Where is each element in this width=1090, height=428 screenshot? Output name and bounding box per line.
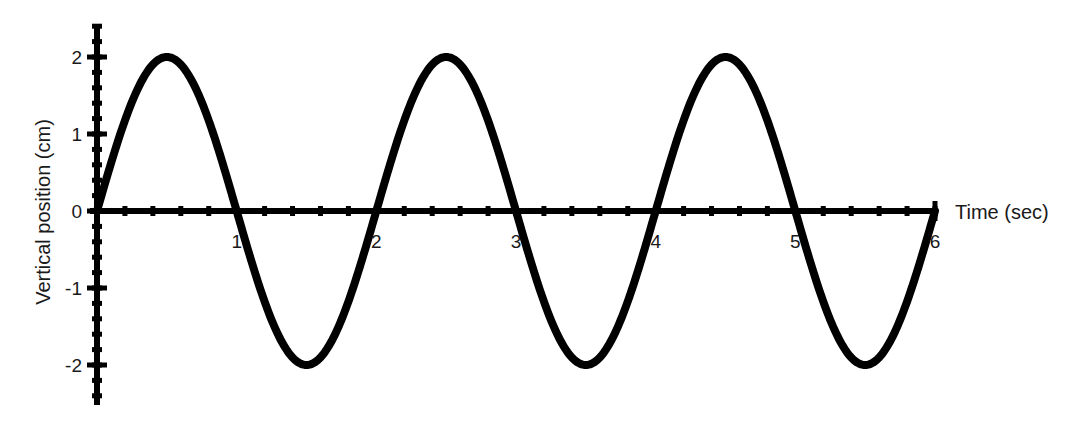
x-axis-title: Time (sec) — [955, 201, 1049, 223]
x-tick-label: 1 — [231, 231, 242, 252]
y-tick-label: 0 — [71, 201, 82, 222]
y-axis-title: Vertical position (cm) — [32, 119, 54, 305]
x-tick-labels: 123456 — [231, 231, 940, 252]
y-tick-label: 2 — [71, 47, 82, 68]
sine-wave-chart: 123456 210-1-2 Time (sec) Vertical posit… — [0, 0, 1090, 428]
y-tick-label: 1 — [71, 124, 82, 145]
x-tick-label: 4 — [650, 231, 661, 252]
x-tick-label: 6 — [930, 231, 941, 252]
y-tick-labels: 210-1-2 — [65, 47, 82, 376]
y-tick-label: -1 — [65, 278, 82, 299]
y-tick-label: -2 — [65, 355, 82, 376]
x-tick-label: 5 — [790, 231, 801, 252]
x-tick-label: 2 — [371, 231, 382, 252]
x-tick-label: 3 — [511, 231, 522, 252]
